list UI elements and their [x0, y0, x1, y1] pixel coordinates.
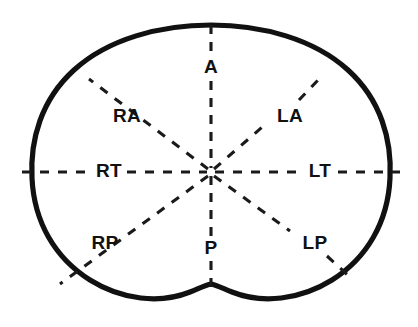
sector-label-RT: RT — [96, 160, 122, 181]
sector-label-LT: LT — [309, 160, 332, 181]
sector-label-RP: RP — [91, 232, 118, 253]
sector-label-LP: LP — [302, 232, 327, 253]
sector-label-RA: RA — [113, 105, 141, 126]
sector-label-LA: LA — [277, 105, 303, 126]
sector-label-A: A — [204, 56, 218, 77]
sector-diagram-figure: A P RT LT RA LA RP LP — [0, 0, 418, 327]
sector-label-P: P — [204, 237, 217, 258]
diagram-canvas: A P RT LT RA LA RP LP — [0, 0, 418, 327]
